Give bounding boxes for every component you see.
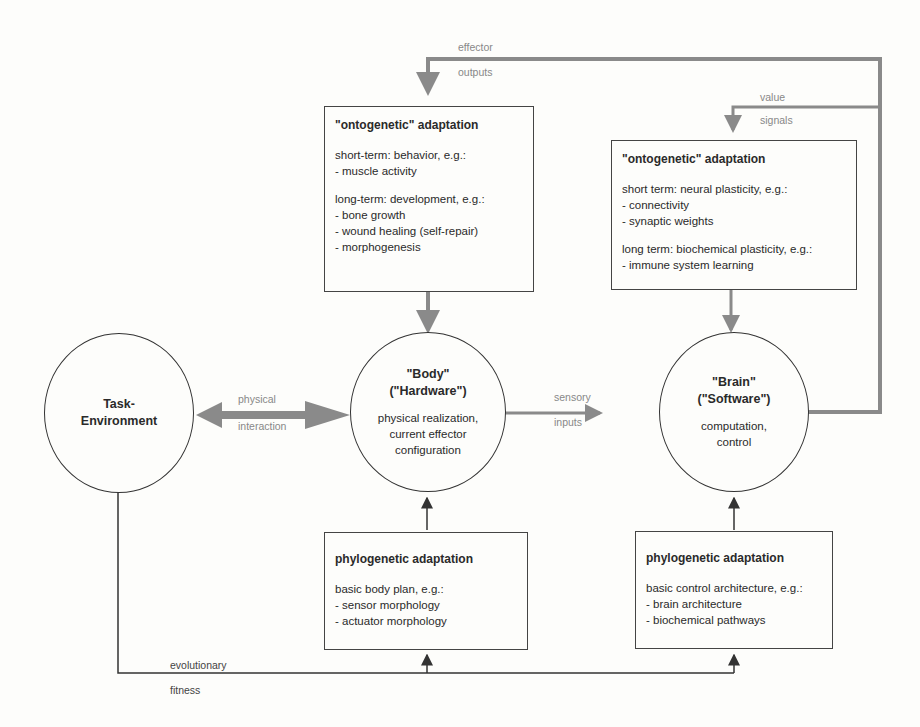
fitness-label-1: evolutionary xyxy=(170,659,227,671)
effector-label-2: outputs xyxy=(458,66,492,78)
short-term-heading: short term: neural plasticity, e.g.: xyxy=(622,181,846,197)
node-desc: physical realization, xyxy=(378,410,478,426)
task-environment-node: Task- Environment xyxy=(44,333,194,493)
node-title: Task- xyxy=(103,396,135,413)
brain-ontogenetic-box: "ontogenetic" adaptation short term: neu… xyxy=(611,140,857,290)
list-item: - synaptic weights xyxy=(622,213,846,229)
box-title: "ontogenetic" adaptation xyxy=(335,117,523,133)
long-term-heading: long term: biochemical plasticity, e.g.: xyxy=(622,241,846,257)
phylo-heading: basic control architecture, e.g.: xyxy=(646,580,822,596)
box-title: phylogenetic adaptation xyxy=(646,550,822,566)
list-item: - immune system learning xyxy=(622,257,846,273)
list-item: - morphogenesis xyxy=(335,239,523,255)
sensory-label-1: sensory xyxy=(554,391,591,403)
body-phylogenetic-box: phylogenetic adaptation basic body plan,… xyxy=(324,532,528,650)
node-desc: configuration xyxy=(395,442,461,458)
fitness-label-2: fitness xyxy=(170,684,200,696)
list-item: - biochemical pathways xyxy=(646,612,822,628)
value-signals-arrow xyxy=(733,107,880,130)
list-item: - actuator morphology xyxy=(335,613,517,629)
list-item: - sensor morphology xyxy=(335,597,517,613)
node-title: ("Software") xyxy=(698,391,771,408)
sensory-label-2: inputs xyxy=(554,416,582,428)
brain-phylogenetic-box: phylogenetic adaptation basic control ar… xyxy=(635,531,833,649)
node-title: ("Hardware") xyxy=(389,383,466,400)
box-title: phylogenetic adaptation xyxy=(335,551,517,567)
node-desc: control xyxy=(717,434,752,450)
phylo-heading: basic body plan, e.g.: xyxy=(335,581,517,597)
value-label-1: value xyxy=(760,91,785,103)
list-item: - wound healing (self-repair) xyxy=(335,223,523,239)
list-item: - muscle activity xyxy=(335,163,523,179)
physical-label-2: interaction xyxy=(238,420,286,432)
short-term-heading: short-term: behavior, e.g.: xyxy=(335,147,523,163)
list-item: - bone growth xyxy=(335,207,523,223)
node-title: "Body" xyxy=(406,366,449,383)
node-desc: current effector xyxy=(389,426,466,442)
body-hardware-node: "Body" ("Hardware") physical realization… xyxy=(350,332,506,492)
list-item: - connectivity xyxy=(622,197,846,213)
value-label-2: signals xyxy=(760,114,793,126)
effector-label-1: effector xyxy=(458,41,493,53)
body-ontogenetic-box: "ontogenetic" adaptation short-term: beh… xyxy=(324,106,534,292)
physical-label-1: physical xyxy=(238,393,276,405)
list-item: - brain architecture xyxy=(646,596,822,612)
brain-software-node: "Brain" ("Software") computation, contro… xyxy=(659,332,809,492)
node-title: Environment xyxy=(81,413,157,430)
node-title: "Brain" xyxy=(712,374,756,391)
box-title: "ontogenetic" adaptation xyxy=(622,151,846,167)
long-term-heading: long-term: development, e.g.: xyxy=(335,191,523,207)
node-desc: computation, xyxy=(701,418,767,434)
